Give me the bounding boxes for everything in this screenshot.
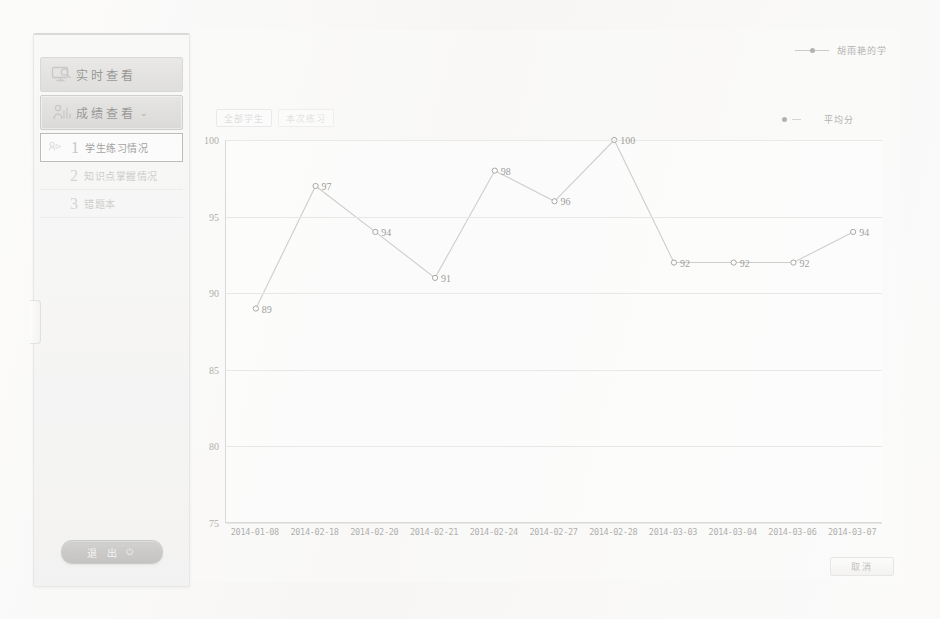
x-axis-tick: 2014-02-21	[410, 527, 458, 537]
chart-card: 胡雨艳的学 平均分 全部学生 本次练习 1009590858075 899794…	[193, 30, 902, 582]
data-point-label: 92	[799, 257, 809, 268]
sidebar-subitem-label: 错题本	[84, 196, 116, 211]
chart-toolbar: 全部学生 本次练习	[216, 109, 334, 127]
data-point-label: 97	[322, 180, 332, 191]
data-point[interactable]	[671, 260, 676, 265]
sidebar-nav-list: 实时查看 成绩查看 ⌄ 1	[40, 57, 183, 218]
data-point-label: 91	[441, 272, 451, 283]
plot-area: 89979491989610092929294	[225, 140, 882, 523]
series-line-chart	[226, 140, 883, 523]
chart-person-icon	[46, 100, 76, 125]
y-axis-tick: 85	[209, 364, 219, 375]
data-point[interactable]	[432, 275, 437, 280]
legend-label: 胡雨艳的学	[837, 44, 887, 57]
filter-current-practice-button[interactable]: 本次练习	[278, 109, 334, 127]
data-point[interactable]	[492, 168, 497, 173]
y-axis-tick: 95	[209, 211, 219, 222]
data-point-label: 98	[501, 165, 511, 176]
gridline	[226, 523, 882, 524]
sidebar-subitem-label: 知识点掌握情况	[84, 168, 158, 183]
data-point[interactable]	[731, 260, 736, 265]
legend-item-series[interactable]: 胡雨艳的学	[795, 44, 887, 57]
monitor-icon	[46, 62, 76, 87]
power-icon: ⏻	[126, 547, 137, 558]
gridline	[226, 370, 882, 371]
x-axis-tick: 2014-03-04	[709, 527, 757, 537]
x-axis-tick: 2014-02-20	[350, 527, 398, 537]
data-point-label: 94	[859, 226, 869, 237]
legend-item-average[interactable]: 平均分	[782, 113, 854, 126]
data-point[interactable]	[851, 229, 856, 234]
data-point-label: 92	[740, 257, 750, 268]
gridline	[226, 446, 882, 447]
filter-all-students-button[interactable]: 全部学生	[216, 109, 272, 127]
legend-line-marker	[795, 50, 829, 51]
x-axis-tick: 2014-02-24	[470, 527, 518, 537]
x-axis-tick: 2014-03-07	[828, 527, 876, 537]
legend-label: 平均分	[824, 113, 854, 126]
legend-dot-marker	[782, 117, 816, 122]
gridline	[226, 293, 882, 294]
x-axis-tick: 2014-03-06	[768, 527, 816, 537]
sidebar-item-label: 成绩查看	[76, 104, 136, 121]
y-axis-tick-labels: 1009590858075	[193, 140, 223, 523]
logout-label: 退 出	[87, 545, 122, 560]
sidebar-subitem-number: 2	[64, 167, 84, 185]
y-axis-tick: 100	[204, 135, 219, 146]
data-point-label: 100	[620, 135, 635, 146]
x-axis-tick-labels: 2014-01-082014-02-182014-02-202014-02-21…	[225, 527, 882, 543]
series-polyline	[256, 140, 853, 309]
gridline	[226, 217, 882, 218]
data-point-label: 94	[381, 226, 391, 237]
sidebar-item-realtime-view[interactable]: 实时查看	[40, 57, 183, 92]
cancel-button[interactable]: 取消	[830, 557, 894, 576]
sidebar-subitem-number: 3	[64, 195, 84, 213]
sidebar-subitem-knowledge-mastery[interactable]: 2 知识点掌握情况	[40, 162, 183, 190]
sidebar-item-score-view[interactable]: 成绩查看 ⌄	[40, 95, 183, 130]
data-point[interactable]	[313, 183, 318, 188]
gridline	[226, 140, 882, 141]
sidebar-subitem-wrong-question-book[interactable]: 3 错题本	[40, 190, 183, 218]
data-point-label: 96	[561, 196, 571, 207]
data-point[interactable]	[373, 229, 378, 234]
sidebar-panel: 实时查看 成绩查看 ⌄ 1	[33, 33, 190, 587]
y-axis-tick: 90	[209, 288, 219, 299]
y-axis-tick: 80	[209, 441, 219, 452]
logout-button[interactable]: 退 出 ⏻	[61, 540, 163, 564]
x-axis-tick: 2014-01-08	[231, 527, 279, 537]
x-axis-tick: 2014-02-18	[290, 527, 338, 537]
x-axis-tick: 2014-02-28	[589, 527, 637, 537]
y-axis-tick: 75	[209, 518, 219, 529]
data-point[interactable]	[253, 306, 258, 311]
sidebar-subitem-number: 1	[65, 139, 85, 157]
data-point-label: 89	[262, 303, 272, 314]
panel-drag-handle[interactable]	[30, 300, 41, 344]
sidebar-item-label: 实时查看	[76, 66, 136, 83]
x-axis-tick: 2014-02-27	[529, 527, 577, 537]
sidebar-subitem-label: 学生练习情况	[85, 140, 148, 155]
data-point[interactable]	[552, 199, 557, 204]
x-axis-tick: 2014-03-03	[649, 527, 697, 537]
student-icon	[45, 141, 65, 155]
chevron-down-icon: ⌄	[140, 108, 148, 118]
data-point-label: 92	[680, 257, 690, 268]
sidebar-subitem-student-practice[interactable]: 1 学生练习情况	[40, 133, 183, 162]
data-point[interactable]	[791, 260, 796, 265]
